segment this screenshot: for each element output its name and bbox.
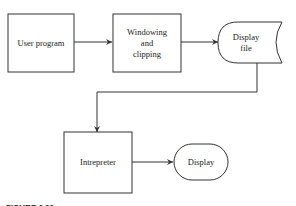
windowing-label-line3: clipping	[133, 49, 162, 59]
display-file-node: Display file	[218, 22, 282, 63]
flow-diagram: User program Windowing and clipping Disp…	[0, 0, 296, 206]
interpreter-node: Intrepreter	[64, 132, 132, 193]
display-file-label-line2: file	[240, 43, 252, 53]
figure-caption: FIGURE 6.20	[6, 203, 55, 206]
display-node: Display	[174, 144, 228, 180]
display-file-label-line1: Display	[233, 32, 260, 42]
windowing-label-line1: Windowing	[127, 27, 168, 37]
windowing-node: Windowing and clipping	[113, 14, 181, 72]
user-program-label: User program	[18, 38, 65, 48]
windowing-label-line2: and	[141, 38, 154, 48]
user-program-node: User program	[8, 14, 74, 72]
interpreter-label: Intrepreter	[80, 157, 116, 167]
display-label: Display	[188, 157, 215, 167]
arrow-display-file-to-interpreter	[97, 63, 257, 132]
